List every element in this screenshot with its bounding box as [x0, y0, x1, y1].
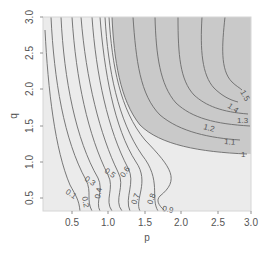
- y-tick-label: 0.5: [24, 191, 35, 205]
- contour-label: 1.3: [237, 116, 249, 125]
- contour-label: 0.9: [162, 204, 175, 215]
- x-tick-label: 2.5: [211, 217, 225, 228]
- x-tick-label: 0.5: [65, 217, 79, 228]
- y-axis-label: q: [8, 113, 19, 119]
- x-tick-label: 1.5: [138, 217, 152, 228]
- y-tick-label: 1.0: [24, 155, 35, 169]
- y-tick-label: 2.5: [24, 46, 35, 60]
- y-tick-label: 2.0: [24, 82, 35, 96]
- x-axis-label: p: [144, 232, 150, 243]
- x-tick-label: 1.0: [101, 217, 115, 228]
- y-tick-label: 1.5: [24, 119, 35, 133]
- x-tick-label: 2.0: [174, 217, 188, 228]
- x-axis: 0.5 1.0 1.5 2.0 2.5 3.0 p: [65, 211, 258, 243]
- contour-label: 1: [241, 150, 246, 159]
- contour-label: 1.1: [224, 137, 236, 147]
- contour-plot: 0.1 0.2 0.3 0.4 0.5 0.6 0.7 0.8 0.9 1 1.…: [0, 0, 271, 255]
- y-tick-label: 3.0: [24, 10, 35, 24]
- x-tick-label: 3.0: [244, 217, 258, 228]
- y-axis: 0.5 1.0 1.5 2.0 2.5 3.0 q: [8, 10, 43, 205]
